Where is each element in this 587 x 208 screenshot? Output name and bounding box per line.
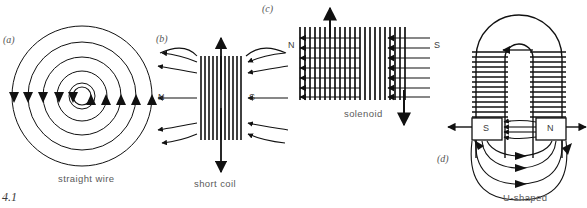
magnetic-field-figure: (a) (b) (c) (d) N S N S S N straight wir… — [0, 0, 587, 208]
panel-b-pole-s: S — [249, 92, 255, 102]
panel-c-tag: (c) — [262, 3, 273, 14]
panel-c-pole-s: S — [434, 40, 440, 50]
panel-d-pole-n: N — [547, 123, 554, 133]
panel-c-caption: solenoid — [344, 108, 383, 119]
panel-b-caption: short coil — [194, 178, 236, 189]
panel-d-caption: U-shaped — [503, 192, 547, 203]
panel-c-pole-n: N — [288, 40, 295, 50]
panel-d-gap-field-lines — [504, 121, 536, 139]
panel-d-pole-s: S — [483, 123, 489, 133]
panel-a-direction-arrows — [9, 92, 157, 105]
figure-number: 4.1 — [2, 190, 17, 205]
panel-b-field-lines — [158, 48, 288, 143]
panel-a-field-circles — [12, 26, 152, 166]
panel-d-windings — [472, 52, 566, 117]
panel-b-tag: (b) — [156, 33, 168, 44]
panel-a-tag: (a) — [3, 34, 15, 45]
panel-b-pole-n: N — [158, 92, 165, 102]
panel-d-stray-field-lines — [471, 140, 572, 200]
panel-d-tag: (d) — [437, 153, 449, 164]
panel-a-caption: straight wire — [58, 173, 114, 184]
